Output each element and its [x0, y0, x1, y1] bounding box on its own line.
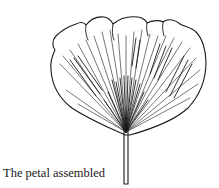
figure-caption: The petal assembled: [3, 166, 105, 181]
petal-drawing-icon: [0, 0, 219, 188]
petal-figure: [0, 0, 219, 188]
